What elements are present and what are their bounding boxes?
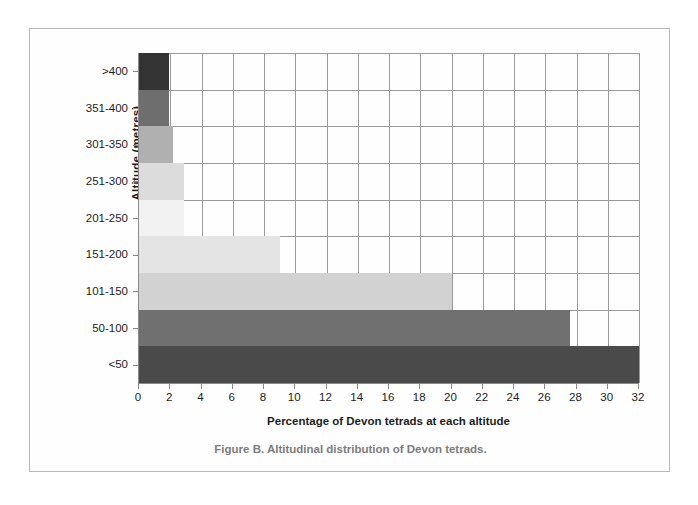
y-tick-label: 351-400: [28, 90, 128, 127]
bar-row: [139, 200, 639, 237]
bar: [139, 163, 184, 200]
x-tick-mark: [201, 384, 202, 389]
bar: [139, 53, 169, 90]
bar-row: [139, 126, 639, 163]
bar: [139, 273, 452, 310]
x-tick-mark: [294, 384, 295, 389]
bar: [139, 126, 173, 163]
x-tick-mark: [544, 384, 545, 389]
x-tick-mark: [357, 384, 358, 389]
y-tick-label: 251-300: [28, 163, 128, 200]
x-tick-mark: [388, 384, 389, 389]
x-tick-mark: [482, 384, 483, 389]
x-tick-mark: [169, 384, 170, 389]
bar: [139, 310, 570, 347]
bar-row: [139, 273, 639, 310]
x-tick-mark: [138, 384, 139, 389]
plot-area: [138, 53, 639, 383]
bar-row: [139, 310, 639, 347]
bar-row: [139, 346, 639, 383]
bar-row: [139, 163, 639, 200]
y-tick-label: <50: [28, 346, 128, 383]
bar: [139, 346, 639, 383]
bar-row: [139, 53, 639, 90]
x-tick-mark: [419, 384, 420, 389]
gridline-vertical: [639, 53, 640, 383]
x-tick-mark: [263, 384, 264, 389]
y-tick-label: 301-350: [28, 126, 128, 163]
bar-row: [139, 236, 639, 273]
x-axis-title: Percentage of Devon tetrads at each alti…: [138, 415, 639, 427]
y-tick-label: 201-250: [28, 200, 128, 237]
x-tick-mark: [232, 384, 233, 389]
x-tick-mark: [451, 384, 452, 389]
x-tick-mark: [326, 384, 327, 389]
x-tick-mark: [607, 384, 608, 389]
y-tick-label: 151-200: [28, 236, 128, 273]
y-tick-label: 101-150: [28, 273, 128, 310]
bar: [139, 236, 280, 273]
y-tick-label: >400: [28, 53, 128, 90]
bar: [139, 200, 184, 237]
x-tick-label: 32: [618, 391, 658, 403]
figure-frame: Altitude (metres) >400351-400301-350251-…: [29, 28, 670, 472]
bar-row: [139, 90, 639, 127]
bar: [139, 90, 169, 127]
x-tick-mark: [638, 384, 639, 389]
figure-caption: Figure B. Altitudinal distribution of De…: [30, 443, 671, 455]
x-tick-mark: [576, 384, 577, 389]
y-tick-label: 50-100: [28, 310, 128, 347]
x-tick-mark: [513, 384, 514, 389]
